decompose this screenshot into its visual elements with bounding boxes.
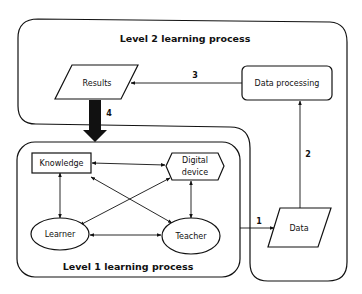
edge-knowledge-digital	[92, 163, 165, 165]
learner-label: Learner	[45, 230, 76, 239]
edge-4-label: 4	[106, 109, 112, 118]
results-label: Results	[83, 79, 112, 88]
edge-1-label: 1	[256, 217, 262, 226]
edge-knowledge-teacher	[91, 177, 172, 223]
digital-device-label-line2: device	[182, 168, 208, 177]
learning-process-diagram: Level 2 learning process Results Data pr…	[0, 0, 362, 294]
digital-device-label-line1: Digital	[182, 156, 208, 165]
edge-digital-learner	[80, 178, 170, 225]
level2-title: Level 2 learning process	[120, 33, 251, 44]
data-processing-label: Data processing	[255, 79, 320, 88]
edge-2-label: 2	[305, 150, 311, 159]
teacher-label: Teacher	[174, 232, 207, 241]
knowledge-label: Knowledge	[40, 159, 84, 168]
edge-3-label: 3	[192, 71, 198, 80]
level1-title: Level 1 learning process	[63, 261, 194, 272]
data-label: Data	[289, 224, 308, 233]
edge-4-thick-arrow	[83, 100, 107, 142]
